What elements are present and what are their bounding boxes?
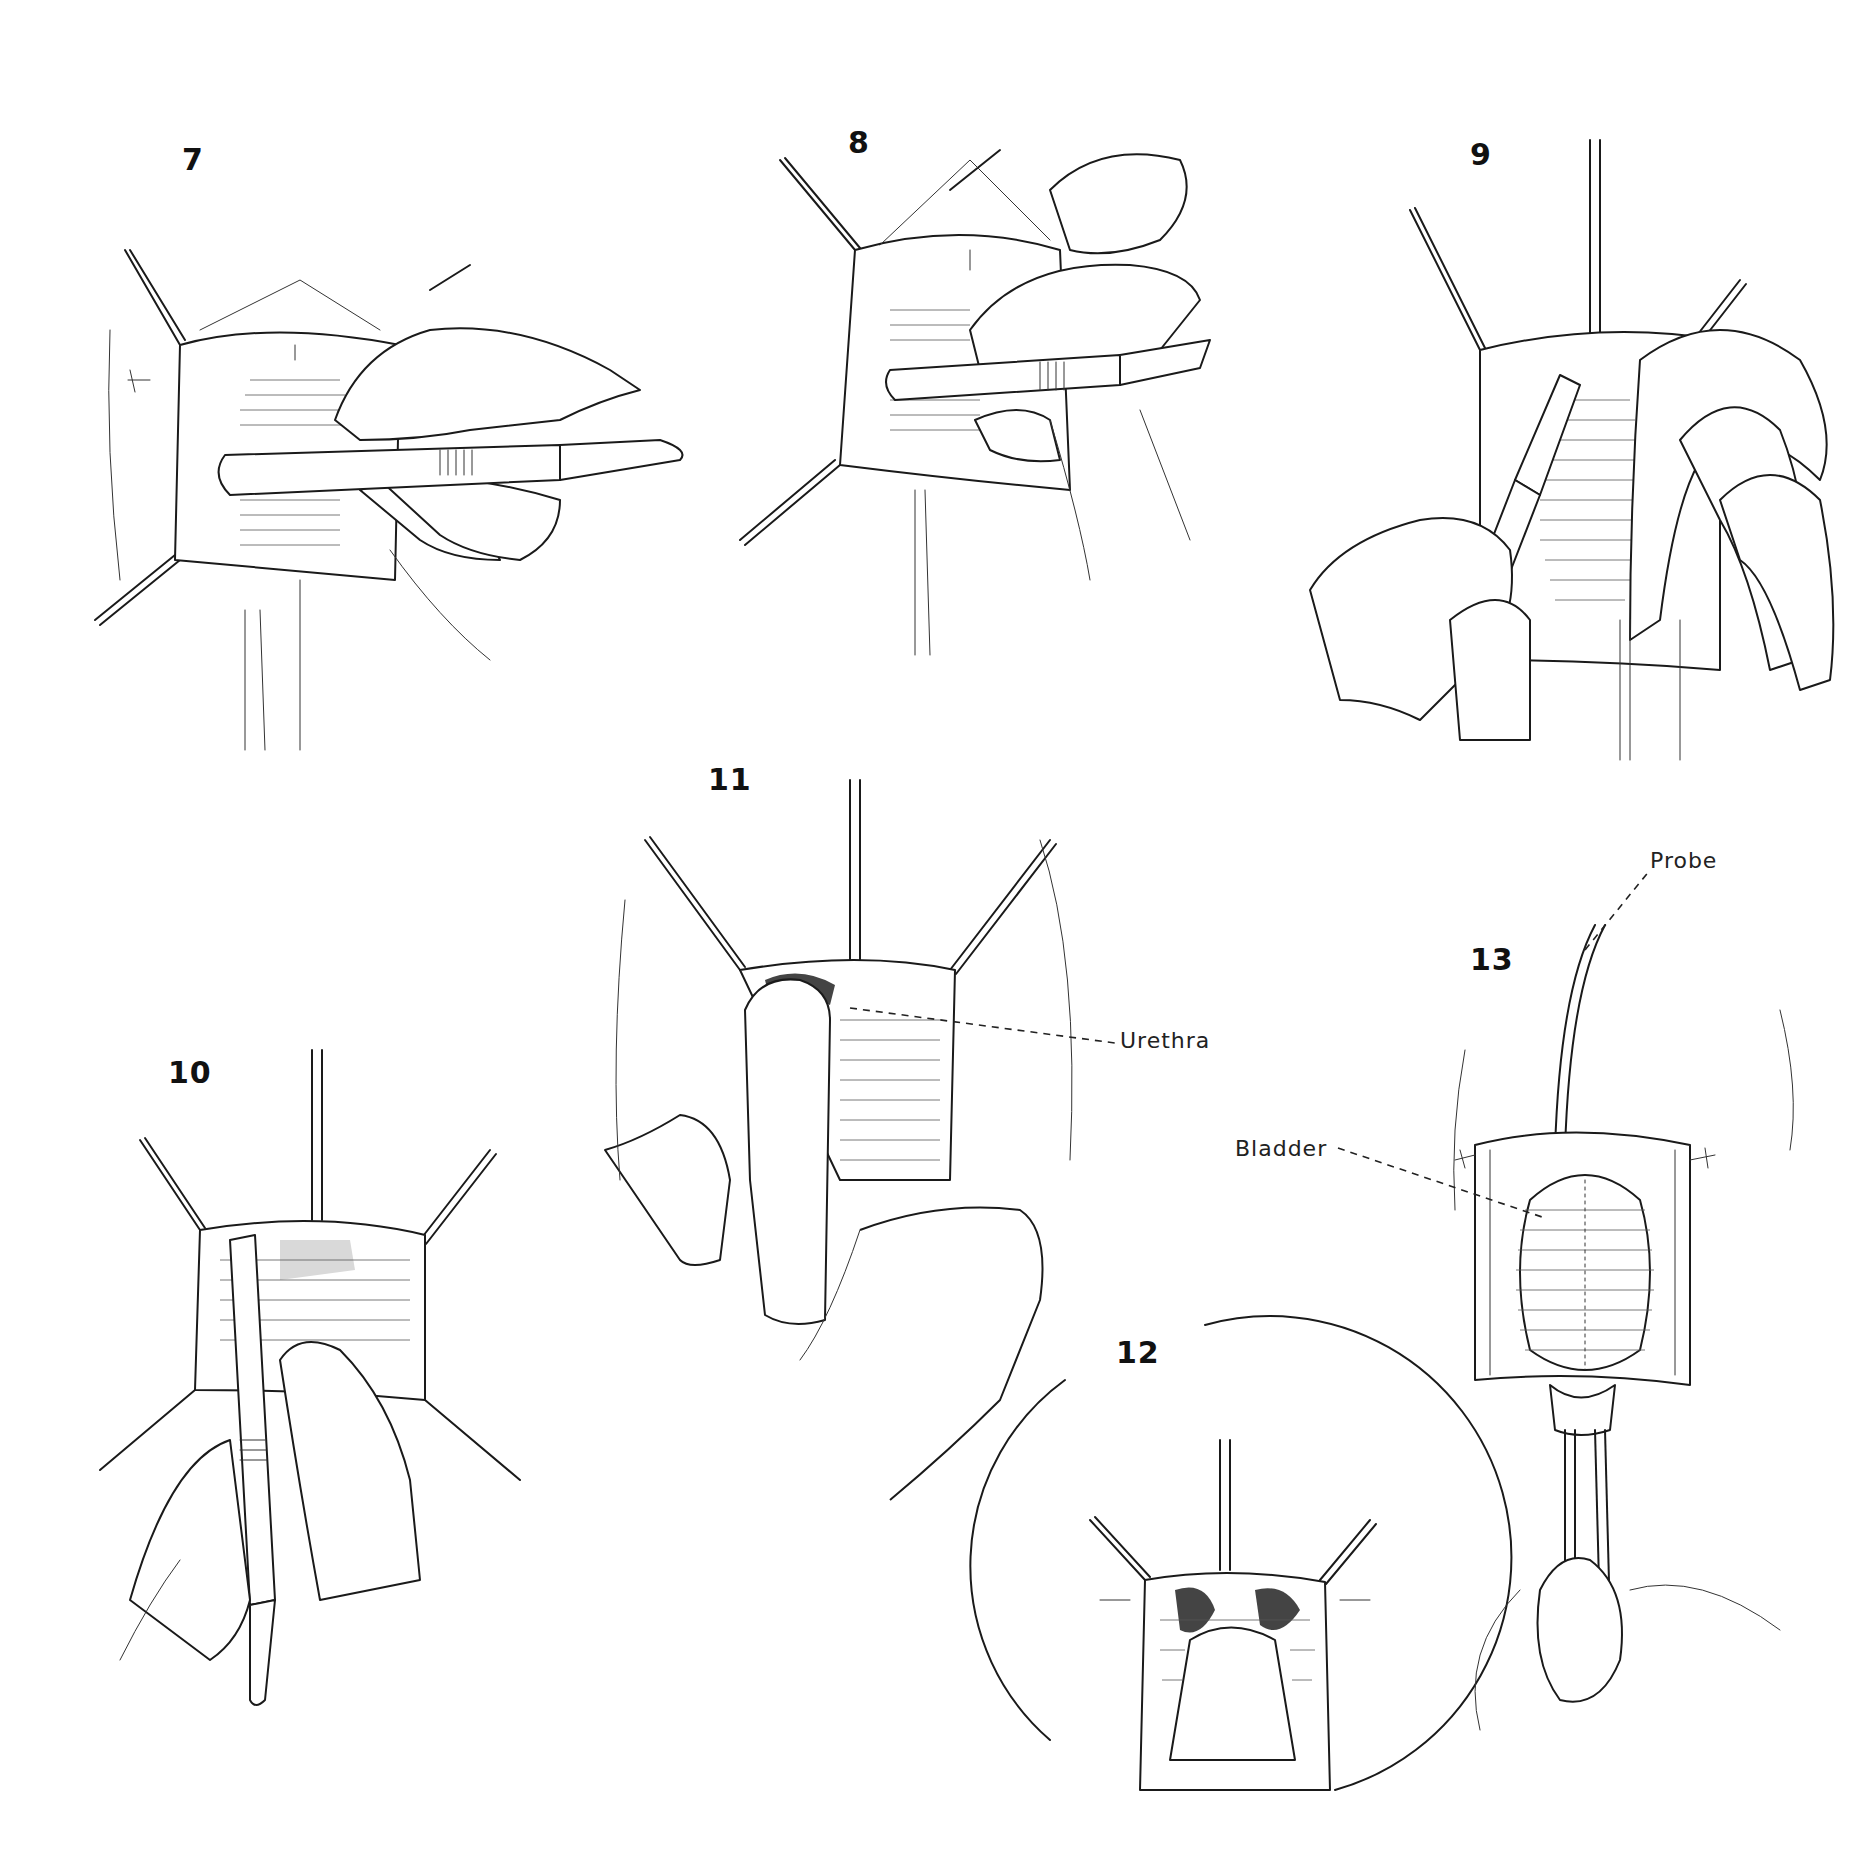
annotation-urethra: Urethra [1120,1030,1210,1052]
probe-instrument [1555,925,1595,1150]
panel-13: 13 [1220,830,1859,1730]
panel-7-drawing [0,0,760,760]
surgical-illustration-figure: 7 [0,0,1859,1869]
panel-8-drawing [720,100,1280,660]
panel-9-drawing [1300,100,1859,780]
panel-10: 10 [90,1040,550,1720]
panel-9: 9 [1300,100,1859,780]
annotation-probe: Probe [1650,850,1717,872]
panel-10-drawing [90,1040,550,1720]
panel-7: 7 [0,0,760,760]
annotation-bladder: Bladder [1235,1138,1327,1160]
probe-leader-line [1585,870,1650,950]
panel-8: 8 [720,100,1280,660]
panel-13-drawing [1220,830,1859,1730]
